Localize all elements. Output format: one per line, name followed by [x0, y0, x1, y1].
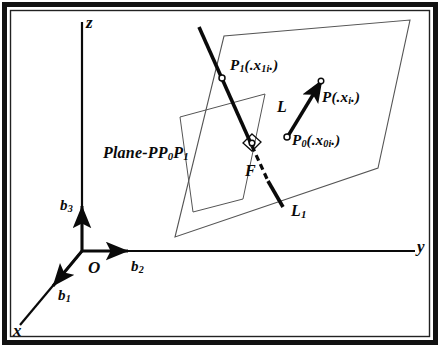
- P0-base: P: [292, 132, 301, 148]
- point-label-P1: P1(.x1i.): [230, 58, 278, 74]
- basis-b3-base: b: [60, 197, 68, 213]
- P-base: P: [322, 89, 331, 105]
- axis-label-x: x: [13, 322, 22, 339]
- P1-base: P: [230, 57, 239, 73]
- segment-L: [284, 78, 324, 140]
- basis-b1-base: b: [58, 287, 66, 303]
- foot-point-label-F: F: [245, 163, 256, 179]
- origin-label: O: [88, 259, 100, 276]
- P-args-end: .): [351, 89, 360, 105]
- point-label-P0: P0(.x0i.): [292, 133, 340, 149]
- P0-args: (.x: [306, 132, 323, 148]
- point-marker-P1: [219, 75, 225, 81]
- geometry-figure: z y x O b3 b2 b1 Plane-PP0P1 P1(.x1i.) P…: [0, 0, 440, 347]
- plane-label-sub1: 1: [183, 150, 188, 162]
- line-L1: [199, 27, 283, 207]
- line-label-L: L: [277, 99, 287, 115]
- basis-b3-sub: 3: [68, 203, 73, 214]
- P0-args-end: .): [331, 132, 340, 148]
- basis-label-b2: b2: [131, 259, 144, 275]
- plane-label: Plane-PP0P1: [103, 145, 189, 162]
- basis-b2-base: b: [131, 258, 139, 274]
- P-args: (.x: [331, 89, 348, 105]
- line-label-L1: L1: [291, 203, 306, 220]
- plane-label-mid: P: [173, 144, 183, 161]
- plane-inner-trace: [180, 94, 265, 212]
- P1-args-end: .): [269, 57, 278, 73]
- axis-label-y: y: [417, 238, 425, 255]
- L1-base: L: [291, 202, 301, 219]
- plane-label-prefix: Plane-PP: [103, 144, 168, 161]
- axis-label-z: z: [86, 14, 93, 31]
- point-label-P: P(.xi.): [322, 90, 360, 106]
- basis-label-b1: b1: [58, 288, 71, 304]
- P1-args: (.x: [244, 57, 261, 73]
- basis-label-b3: b3: [60, 198, 73, 214]
- basis-b2-sub: 2: [139, 264, 144, 275]
- basis-b1-sub: 1: [66, 293, 71, 304]
- L1-sub: 1: [301, 208, 306, 220]
- basis-vector-b1: [53, 251, 82, 286]
